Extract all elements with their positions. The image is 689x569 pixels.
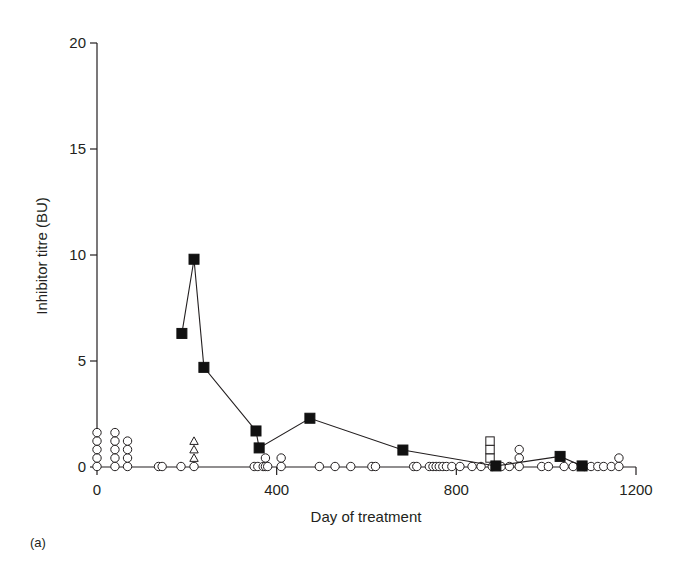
open-circle-marker [371,462,379,470]
open-circle-marker [468,462,476,470]
x-axis-title: Day of treatment [311,508,423,525]
y-tick-label: 15 [69,140,86,157]
open-circle-marker [515,445,523,453]
y-tick-label: 20 [69,34,86,51]
open-circle-marker [111,454,119,462]
open-circle-marker [448,462,456,470]
open-circle-marker [190,462,198,470]
chart-canvas: 0510152004008001200 Inhibitor titre (BU)… [0,0,689,569]
open-circle-marker [93,454,101,462]
open-circle-marker [93,462,101,470]
open-circle-marker [123,454,131,462]
open-circle-marker [111,428,119,436]
filled-square-marker [555,451,565,461]
filled-square-marker [189,254,199,264]
open-triangle-marker [190,437,198,445]
x-tick-label: 0 [93,481,101,498]
open-circle-marker [93,437,101,445]
open-circle-marker [331,462,339,470]
filled-square-marker [199,362,209,372]
y-tick-label: 5 [78,352,86,369]
open-circle-marker [515,462,523,470]
y-axis-title: Inhibitor titre (BU) [33,197,50,315]
open-circle-marker [277,454,285,462]
y-tick-label: 0 [78,458,86,475]
open-triangle-marker [190,454,198,462]
series-line [182,259,582,466]
open-circle-marker [263,462,271,470]
open-circle-marker [111,437,119,445]
filled-square-marker [577,461,587,471]
filled-square-marker [491,461,501,471]
open-circle-marker [413,462,421,470]
filled-square-marker [305,413,315,423]
filled-square-marker [254,443,264,453]
axes: 0510152004008001200 [69,34,652,498]
open-circle-marker [123,462,131,470]
open-circle-marker [93,428,101,436]
open-triangle-marker [190,445,198,453]
open-square-marker [486,445,494,453]
open-circle-marker [560,462,568,470]
x-tick-label: 400 [264,481,289,498]
open-circle-marker [615,454,623,462]
open-circle-marker [158,462,166,470]
filled-square-marker [251,426,261,436]
x-tick-label: 800 [444,481,469,498]
x-tick-label: 1200 [619,481,652,498]
open-circle-marker [544,462,552,470]
open-circle-marker [615,462,623,470]
open-circle-marker [347,462,355,470]
open-circle-marker [177,462,185,470]
panel-label: (a) [30,535,46,550]
open-circle-marker [111,462,119,470]
open-circle-marker [123,437,131,445]
open-circle-marker [93,445,101,453]
y-tick-label: 10 [69,246,86,263]
filled-square-marker [398,445,408,455]
open-circle-marker [315,462,323,470]
plot-area [93,254,623,471]
filled-square-marker [177,328,187,338]
open-square-marker [486,437,494,445]
open-circle-marker [123,445,131,453]
open-circle-marker [261,454,269,462]
open-circle-marker [111,445,119,453]
open-circle-marker [515,454,523,462]
open-circle-marker [277,462,285,470]
open-circle-marker [456,462,464,470]
